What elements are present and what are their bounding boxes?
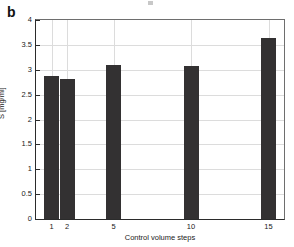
x-axis-tick-label: 5 — [111, 223, 115, 231]
bar-1 — [44, 76, 59, 219]
y-axis-tick — [36, 70, 40, 71]
y-axis-tick-label: 3.5 — [22, 41, 32, 49]
y-axis-title: S [mg/ml] — [0, 87, 6, 119]
x-axis-title: Control volume steps — [35, 234, 285, 242]
y-axis-tick-label: 4 — [28, 16, 32, 24]
plot-area: 00.511.522.533.541251015 — [35, 19, 285, 220]
y-axis-tick-label: 1.5 — [22, 141, 32, 149]
y-axis-tick-label: 1 — [28, 166, 32, 174]
y-axis-tick — [36, 120, 40, 121]
figure-panel-b: b 00.511.522.533.541251015 S [mg/ml] Con… — [0, 0, 294, 247]
y-axis-tick — [36, 45, 40, 46]
x-axis-tick-label: 10 — [187, 223, 195, 231]
x-axis-tick-label: 15 — [264, 223, 272, 231]
bar-2 — [60, 79, 75, 219]
y-axis-tick — [36, 169, 40, 170]
x-axis-tick-label: 1 — [49, 223, 53, 231]
bar-10 — [184, 66, 199, 219]
y-axis-tick-label: 2 — [28, 116, 32, 124]
y-axis-tick — [36, 95, 40, 96]
y-axis-tick-label: 0.5 — [22, 190, 32, 198]
y-axis-tick-label: 0 — [28, 215, 32, 223]
y-axis-tick — [36, 20, 40, 21]
y-axis-tick-label: 2.5 — [22, 91, 32, 99]
grid-line-horizontal — [36, 45, 284, 46]
y-axis-tick — [36, 194, 40, 195]
y-axis-tick — [36, 219, 40, 220]
bar-5 — [106, 65, 121, 219]
x-axis-tick-label: 2 — [65, 223, 69, 231]
scan-speck — [148, 1, 153, 5]
y-axis-tick-label: 3 — [28, 66, 32, 74]
bar-15 — [261, 38, 276, 219]
scan-artifact — [0, 0, 294, 9]
grid-line-horizontal — [36, 70, 284, 71]
y-axis-tick — [36, 144, 40, 145]
panel-label: b — [7, 5, 16, 19]
